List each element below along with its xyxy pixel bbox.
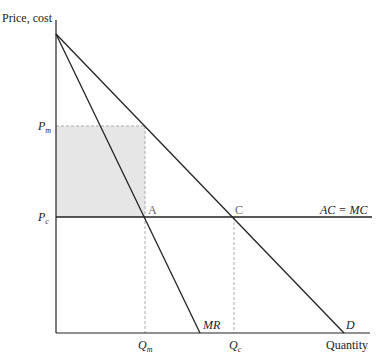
ac-mc-label: AC = MC bbox=[320, 203, 367, 218]
pm-label: Pm bbox=[38, 119, 51, 135]
point-a-label: A bbox=[148, 203, 157, 218]
y-axis-label: Price, cost bbox=[2, 11, 52, 26]
mr-label: MR bbox=[203, 318, 220, 333]
x-axis-label: Quantity bbox=[326, 338, 368, 353]
diagram-canvas bbox=[0, 0, 388, 363]
pc-label: Pc bbox=[38, 210, 49, 226]
qm-label: Qm bbox=[138, 338, 152, 354]
d-label: D bbox=[346, 318, 355, 333]
qc-label: Qc bbox=[229, 338, 241, 354]
shaded-profit-area bbox=[56, 126, 145, 217]
point-c-label: C bbox=[235, 203, 243, 218]
